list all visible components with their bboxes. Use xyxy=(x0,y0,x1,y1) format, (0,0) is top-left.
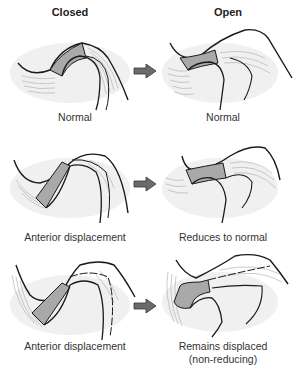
label-open-normal: Normal xyxy=(148,111,298,124)
label-open-remains-displaced: Remains displaced (non-reducing) xyxy=(148,340,298,366)
right-arrow-icon xyxy=(133,63,157,79)
diagram-open-remains-displaced xyxy=(160,252,298,337)
diagram-open-reduces-to-normal xyxy=(160,138,298,223)
right-arrow-icon xyxy=(133,176,157,192)
diagram-closed-normal xyxy=(0,18,140,108)
column-header-closed: Closed xyxy=(20,6,120,18)
label-closed-anterior-displacement-2: Anterior displacement xyxy=(0,340,150,353)
label-line-1: Remains displaced xyxy=(148,340,298,353)
diagram-open-normal xyxy=(160,18,298,108)
label-line-2: (non-reducing) xyxy=(148,353,298,366)
right-arrow-icon xyxy=(133,298,157,314)
diagram-closed-anterior-displacement xyxy=(0,138,140,223)
label-closed-anterior-displacement: Anterior displacement xyxy=(0,231,150,244)
label-open-reduces-to-normal: Reduces to normal xyxy=(148,231,298,244)
label-closed-normal: Normal xyxy=(0,111,150,124)
diagram-closed-anterior-displacement-2 xyxy=(0,255,140,340)
column-header-open: Open xyxy=(178,6,278,18)
